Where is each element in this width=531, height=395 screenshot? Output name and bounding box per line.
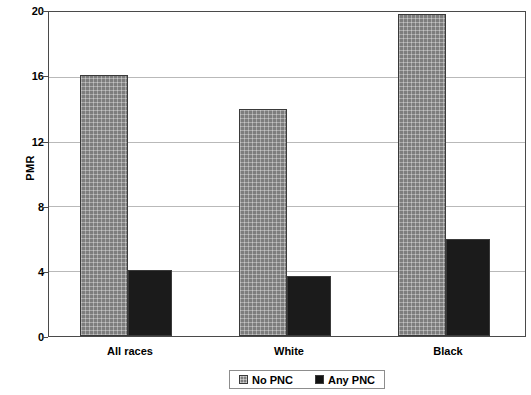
bar-black-any-pnc xyxy=(446,239,490,336)
y-tick-label-8: 8 xyxy=(10,202,44,213)
legend-entry-no-pnc: No PNC xyxy=(239,374,293,386)
black-solid-swatch-icon xyxy=(315,375,324,384)
chart-legend: No PNC Any PNC xyxy=(229,370,385,389)
bar-all-races-any-pnc xyxy=(128,270,172,336)
x-tick-label-black: Black xyxy=(383,345,513,357)
bar-all-races-no-pnc xyxy=(80,75,128,336)
legend-label-any-pnc: Any PNC xyxy=(328,374,375,386)
bar-chart-figure: PMR 20 16 12 8 4 0 All races White Black xyxy=(0,0,531,395)
x-tick-label-all-races: All races xyxy=(65,345,195,357)
gray-crosshatch-swatch-icon xyxy=(239,375,248,384)
x-tick-label-white: White xyxy=(224,345,354,357)
legend-entry-any-pnc: Any PNC xyxy=(315,374,375,386)
bar-white-any-pnc xyxy=(287,276,331,336)
y-tick-label-12: 12 xyxy=(10,137,44,148)
y-tick-label-20: 20 xyxy=(10,6,44,17)
y-tick-mark-0 xyxy=(42,337,48,338)
y-tick-label-0: 0 xyxy=(10,332,44,343)
legend-label-no-pnc: No PNC xyxy=(252,374,293,386)
y-tick-label-16: 16 xyxy=(10,71,44,82)
bar-black-no-pnc xyxy=(398,14,446,336)
plot-area xyxy=(48,11,526,337)
bar-white-no-pnc xyxy=(239,109,287,336)
y-tick-label-4: 4 xyxy=(10,267,44,278)
